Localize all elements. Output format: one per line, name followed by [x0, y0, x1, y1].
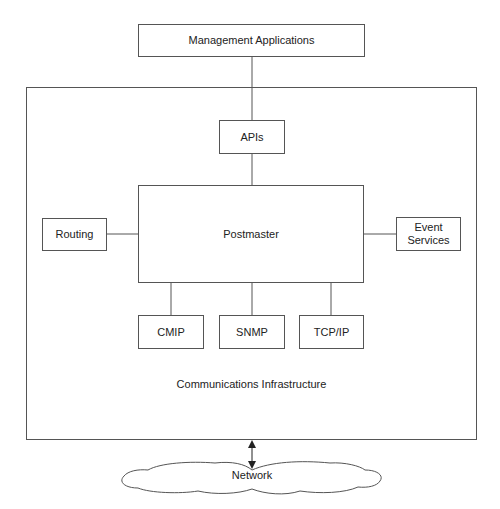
tcp-ip-box: TCP/IP — [299, 315, 364, 349]
postmaster-box: Postmaster — [138, 185, 364, 283]
event-services-label-line1: Event — [414, 221, 442, 234]
routing-label: Routing — [56, 228, 94, 241]
routing-box: Routing — [42, 218, 107, 251]
management-applications-box: Management Applications — [138, 24, 365, 57]
apis-label: APIs — [240, 131, 263, 144]
network-label: Network — [202, 469, 302, 481]
management-applications-label: Management Applications — [189, 34, 315, 47]
communications-infrastructure-label: Communications Infrastructure — [26, 378, 477, 390]
snmp-label: SNMP — [236, 326, 268, 339]
cmip-box: CMIP — [138, 315, 204, 349]
event-services-label-line2: Services — [407, 234, 449, 247]
apis-box: APIs — [219, 120, 285, 154]
tcp-ip-label: TCP/IP — [314, 326, 349, 339]
snmp-box: SNMP — [219, 315, 285, 349]
postmaster-label: Postmaster — [223, 228, 279, 241]
cmip-label: CMIP — [157, 326, 185, 339]
event-services-box: Event Services — [396, 217, 461, 251]
